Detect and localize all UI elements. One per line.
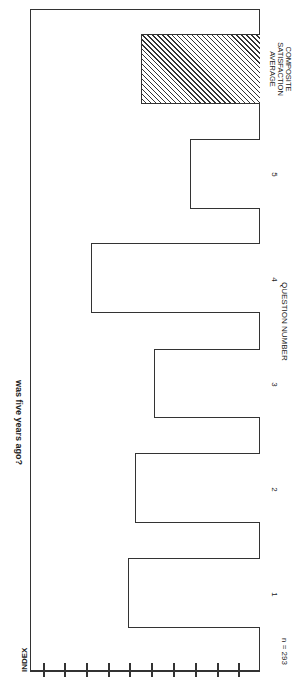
tick-10	[43, 663, 45, 677]
bar-question-5	[190, 139, 260, 209]
category-label-3: 3	[270, 382, 279, 386]
tick-9	[64, 663, 66, 677]
x-axis-title: QUESTION NUMBER	[280, 282, 289, 361]
category-label-2: 2	[270, 487, 279, 491]
category-label-5: 5	[270, 172, 279, 176]
chart-title-fragment: was five years ago?	[14, 380, 24, 465]
bar-composite-average	[141, 34, 260, 104]
tick-8	[86, 663, 88, 677]
tick-2	[217, 663, 219, 677]
composite-label-line: SATISFACTION	[276, 34, 284, 104]
tick-5	[151, 663, 153, 677]
composite-label-line: COMPOSITE	[284, 34, 292, 104]
composite-label: COMPOSITE SATISFACTION AVERAGE	[268, 34, 292, 104]
bar-question-1	[128, 558, 260, 628]
bar-question-3	[154, 349, 260, 418]
category-label-4: 4	[270, 277, 279, 281]
tick-1	[238, 663, 240, 677]
category-label-1: 1	[270, 592, 279, 596]
tick-3	[195, 663, 197, 677]
bar-question-4	[91, 243, 260, 313]
y-axis-title: INDEX	[20, 648, 29, 672]
composite-label-line: AVERAGE	[268, 34, 276, 104]
tick-7	[108, 663, 110, 677]
bar-question-2	[135, 453, 260, 523]
tick-6	[129, 663, 131, 677]
tick-4	[173, 663, 175, 677]
sample-size-note: n = 293	[280, 638, 289, 665]
